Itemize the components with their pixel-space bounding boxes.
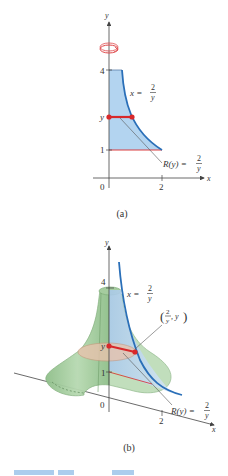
curve-label-den-3d: y	[147, 294, 152, 303]
y-tick-1-label: 1	[100, 145, 105, 155]
radius-label-lhs-3d: R(y) =	[170, 406, 195, 416]
radius-point-left-3d	[106, 343, 111, 348]
panel-a-caption: (a)	[116, 208, 127, 220]
figure-canvas: y x 0 2 1 4 y x = 2 y R(y) = 2 y (a)	[0, 0, 228, 476]
origin-label: 0	[100, 182, 105, 192]
curve-label-num: 2	[151, 83, 155, 92]
y-var-label-3d: y	[100, 341, 105, 351]
radius-label-lhs: R(y) =	[162, 159, 187, 169]
point-label-close-paren: )	[183, 309, 187, 324]
y-var-label: y	[99, 112, 104, 122]
x-axis-label-3d: x	[211, 425, 216, 434]
leader-line-point	[135, 325, 162, 349]
panel-b: y x 0 2 1 4 y x = 2 y ( 2 y , y ) R(y) =…	[14, 238, 216, 454]
y-tick-4-label-3d: 4	[101, 277, 106, 287]
radius-label-den: y	[196, 164, 201, 173]
x-tick-2-label-3d: 2	[159, 416, 164, 426]
y-axis-label-3d: y	[104, 238, 109, 247]
radius-label-num-3d: 2	[205, 401, 209, 410]
radius-label-den-3d: y	[204, 411, 209, 420]
panel-b-caption: (b)	[123, 442, 135, 454]
y-tick-1-label-3d: 1	[101, 368, 106, 378]
y-tick-4-label: 4	[100, 66, 105, 76]
radius-point-right-3d	[132, 349, 137, 354]
radius-label-num: 2	[197, 154, 201, 163]
radius-point-right	[129, 114, 134, 119]
figure-caption-partial	[14, 470, 134, 475]
origin-label-3d: 0	[100, 400, 105, 410]
curve-label-lhs-3d: x =	[126, 289, 139, 299]
point-label-num: 2	[166, 308, 170, 316]
curve-label-lhs: x =	[129, 88, 142, 98]
x-axis-label: x	[206, 174, 211, 183]
y-axis-label: y	[104, 11, 109, 20]
x-tick-2-label: 2	[159, 182, 164, 192]
panel-a: y x 0 2 1 4 y x = 2 y R(y) = 2 y (a)	[93, 11, 211, 220]
point-label-den: y	[165, 317, 170, 325]
curve-label-den: y	[150, 93, 155, 102]
radius-point-left	[106, 114, 111, 119]
curve-label-num-3d: 2	[148, 284, 152, 293]
shaded-region	[109, 70, 162, 150]
point-label-open-paren: (	[160, 309, 164, 324]
point-label-rest: , y	[171, 312, 179, 321]
